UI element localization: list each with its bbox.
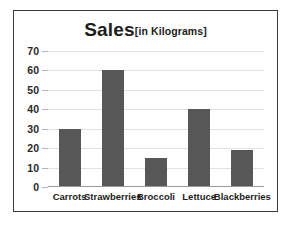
bar-slot: [48, 51, 91, 187]
bar-slot: [178, 51, 221, 187]
bar[interactable]: [102, 70, 124, 187]
x-axis-labels-group: CarrotsStrawberriesBroccoliLettuceBlackb…: [48, 191, 264, 207]
chart-title: Sales[in Kilograms]: [14, 19, 277, 41]
chart-title-main: Sales: [84, 19, 135, 40]
plot-area: 010203040506070: [48, 51, 264, 187]
bar-slot: [221, 51, 264, 187]
y-axis-tick-label: 40: [27, 103, 39, 115]
y-axis-tick-label: 50: [27, 84, 39, 96]
bar[interactable]: [188, 109, 210, 187]
y-axis-tick-label: 60: [27, 64, 39, 76]
y-axis-tick-label: 20: [27, 142, 39, 154]
y-axis-tick-label: 30: [27, 123, 39, 135]
chart-page: Sales[in Kilograms] 010203040506070 Carr…: [0, 0, 295, 232]
y-axis-tick: [42, 187, 48, 188]
bar[interactable]: [145, 158, 167, 187]
x-axis-category-label: Carrots: [53, 191, 87, 202]
x-axis-category-label: Lettuce: [182, 191, 216, 202]
bar[interactable]: [59, 129, 81, 187]
bar-slot: [134, 51, 177, 187]
bar[interactable]: [231, 150, 253, 187]
y-axis-tick-label: 70: [27, 45, 39, 57]
bar-slot: [91, 51, 134, 187]
y-axis-tick-label: 0: [33, 181, 39, 193]
x-axis-category-label: Blackberries: [214, 191, 271, 202]
x-axis-baseline: [48, 186, 264, 188]
y-axis-tick-label: 10: [27, 162, 39, 174]
chart-title-subtitle: [in Kilograms]: [135, 25, 207, 37]
bars-group: [48, 51, 264, 187]
chart-frame: Sales[in Kilograms] 010203040506070 Carr…: [13, 10, 278, 212]
x-axis-category-label: Broccoli: [137, 191, 175, 202]
x-axis-category-label: Strawberries: [84, 191, 142, 202]
